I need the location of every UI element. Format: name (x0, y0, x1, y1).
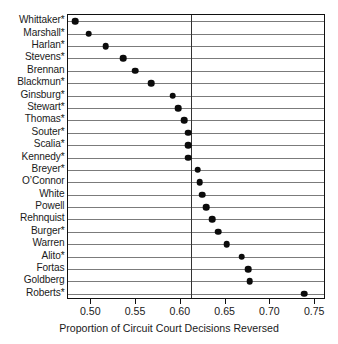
x-axis-tick (90, 299, 91, 304)
category-gridline (68, 257, 324, 258)
category-gridline (68, 58, 324, 59)
category-gridline (68, 96, 324, 97)
data-point (120, 55, 127, 62)
data-point (102, 43, 109, 50)
category-gridline (68, 71, 324, 72)
category-label: Burger* (1, 226, 65, 236)
category-label: Fortas (1, 263, 65, 273)
data-point (199, 191, 206, 198)
x-axis-tick (180, 299, 181, 304)
category-label: Warren (1, 238, 65, 248)
category-label: Marshall* (1, 28, 65, 38)
category-gridline (68, 281, 324, 282)
x-axis-tick (135, 299, 136, 304)
category-label: Whittaker* (1, 15, 65, 25)
data-point (72, 18, 79, 25)
x-axis-tick-label: 0.70 (259, 305, 280, 317)
data-point (247, 278, 254, 285)
category-axis-labels: Whittaker*Marshall*Harlan*Stevens*Brenna… (0, 0, 65, 344)
category-label: Harlan* (1, 40, 65, 50)
category-gridline (68, 145, 324, 146)
category-label: Souter* (1, 127, 65, 137)
category-gridline (68, 294, 324, 295)
category-gridline (68, 269, 324, 270)
category-gridline (68, 34, 324, 35)
x-axis-tick (314, 299, 315, 304)
category-gridline (68, 21, 324, 22)
x-axis-tick-label: 0.75 (304, 305, 325, 317)
category-label: Roberts* (1, 288, 65, 298)
data-point (185, 129, 192, 136)
data-point (132, 67, 139, 74)
category-label: Ginsburg* (1, 89, 65, 99)
x-axis-tick-label: 0.65 (214, 305, 235, 317)
x-axis-tick-label: 0.55 (125, 305, 146, 317)
x-axis-tick-label: 0.50 (80, 305, 101, 317)
category-gridline (68, 83, 324, 84)
category-gridline (68, 133, 324, 134)
data-point (148, 80, 155, 87)
data-point (301, 291, 308, 298)
category-label: Kennedy* (1, 151, 65, 161)
dot-plot-chart: Whittaker*Marshall*Harlan*Stevens*Brenna… (0, 0, 338, 344)
category-gridline (68, 195, 324, 196)
data-point (238, 253, 245, 260)
category-label: White (1, 189, 65, 199)
category-gridline (68, 108, 324, 109)
category-label: Alito* (1, 251, 65, 261)
data-point (215, 229, 222, 236)
data-point (195, 167, 202, 174)
data-point (175, 105, 182, 112)
data-point (245, 266, 252, 273)
data-point (196, 179, 203, 186)
data-point (169, 92, 176, 99)
category-label: Thomas* (1, 114, 65, 124)
data-point (185, 154, 192, 161)
category-gridline (68, 244, 324, 245)
data-point (203, 204, 210, 211)
category-label: Powell (1, 201, 65, 211)
category-label: Scalia* (1, 139, 65, 149)
category-label: Stevens* (1, 52, 65, 62)
data-point (181, 117, 188, 124)
x-axis-tick-label: 0.60 (170, 305, 191, 317)
category-label: Goldberg (1, 275, 65, 285)
plot-area (67, 14, 325, 299)
category-label: O’Connor (1, 176, 65, 186)
category-label: Blackmun* (1, 77, 65, 87)
x-axis-tick (269, 299, 270, 304)
category-label: Rehnquist (1, 213, 65, 223)
data-point (185, 142, 192, 149)
x-axis-title: Proportion of Circuit Court Decisions Re… (0, 322, 338, 335)
data-point (209, 216, 216, 223)
category-label: Brennan (1, 65, 65, 75)
category-gridline (68, 219, 324, 220)
category-gridline (68, 120, 324, 121)
category-gridline (68, 207, 324, 208)
category-gridline (68, 232, 324, 233)
category-label: Breyer* (1, 164, 65, 174)
category-label: Stewart* (1, 102, 65, 112)
category-gridline (68, 158, 324, 159)
x-axis-tick (225, 299, 226, 304)
data-point (85, 30, 92, 37)
data-point (223, 241, 230, 248)
